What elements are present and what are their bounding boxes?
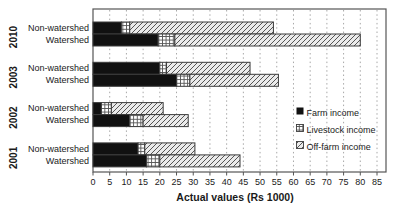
year-label: 2002 <box>8 106 19 129</box>
legend-swatch-farm-income <box>297 108 304 115</box>
bar-segment-livestock-income <box>160 62 167 74</box>
x-tick-label: 75 <box>339 177 349 187</box>
x-tick-label: 70 <box>322 177 332 187</box>
bar-segment-livestock-income <box>138 143 145 155</box>
row-label: Non-watershed <box>28 144 89 154</box>
x-tick-label: 20 <box>155 177 165 187</box>
row-label: Non-watershed <box>28 103 89 113</box>
bar-segment-off-farm-income <box>190 74 279 86</box>
bar-segment-livestock-income <box>158 34 175 46</box>
x-tick-label: 30 <box>188 177 198 187</box>
x-tick-label: 45 <box>238 177 248 187</box>
bar-segment-farm-income <box>93 74 177 86</box>
bar-segment-off-farm-income <box>145 143 195 155</box>
legend-label: Off-farm income <box>307 142 371 152</box>
legend-label: Livestock income <box>307 125 376 135</box>
stacked-bar-chart: 0510152025303540455055606570758085Non-wa… <box>0 0 404 219</box>
row-label: Watershed <box>46 115 89 125</box>
year-label: 2003 <box>8 66 19 89</box>
bar-segment-off-farm-income <box>130 22 274 34</box>
legend-swatch-off-farm-income <box>297 142 304 149</box>
bar-segment-farm-income <box>93 143 138 155</box>
legend-label: Farm income <box>307 108 360 118</box>
x-axis-title: Actual values (Rs 1000) <box>176 191 293 203</box>
row-label: Non-watershed <box>28 23 89 33</box>
x-tick-label: 25 <box>172 177 182 187</box>
bar-segment-farm-income <box>93 62 160 74</box>
x-tick-label: 5 <box>107 177 112 187</box>
bar-segment-off-farm-income <box>160 155 240 167</box>
x-tick-label: 65 <box>305 177 315 187</box>
bar-segment-livestock-income <box>121 22 129 34</box>
bar-segment-farm-income <box>93 115 130 127</box>
x-tick-label: 40 <box>222 177 232 187</box>
bar-segment-farm-income <box>93 34 158 46</box>
bar-segment-livestock-income <box>101 103 111 115</box>
bar-segment-livestock-income <box>130 115 143 127</box>
bar-segment-off-farm-income <box>167 62 251 74</box>
x-tick-label: 15 <box>138 177 148 187</box>
bar-segment-livestock-income <box>146 155 159 167</box>
figure: 0510152025303540455055606570758085Non-wa… <box>0 0 404 219</box>
bar-segment-farm-income <box>93 103 101 115</box>
year-label: 2001 <box>8 146 19 169</box>
year-label: 2010 <box>8 25 19 48</box>
x-tick-label: 35 <box>205 177 215 187</box>
row-label: Watershed <box>46 156 89 166</box>
x-tick-label: 60 <box>288 177 298 187</box>
row-label: Watershed <box>46 75 89 85</box>
bar-segment-off-farm-income <box>175 34 360 46</box>
bar-segment-farm-income <box>93 22 121 34</box>
bar-segment-livestock-income <box>177 74 190 86</box>
x-tick-label: 80 <box>355 177 365 187</box>
legend-swatch-livestock-income <box>297 125 304 132</box>
x-tick-label: 10 <box>121 177 131 187</box>
x-tick-label: 0 <box>90 177 95 187</box>
bar-segment-off-farm-income <box>143 115 188 127</box>
bar-segment-farm-income <box>93 155 146 167</box>
x-tick-label: 85 <box>372 177 382 187</box>
row-label: Watershed <box>46 35 89 45</box>
x-tick-label: 50 <box>255 177 265 187</box>
bar-segment-off-farm-income <box>111 103 163 115</box>
row-label: Non-watershed <box>28 63 89 73</box>
x-tick-label: 55 <box>272 177 282 187</box>
